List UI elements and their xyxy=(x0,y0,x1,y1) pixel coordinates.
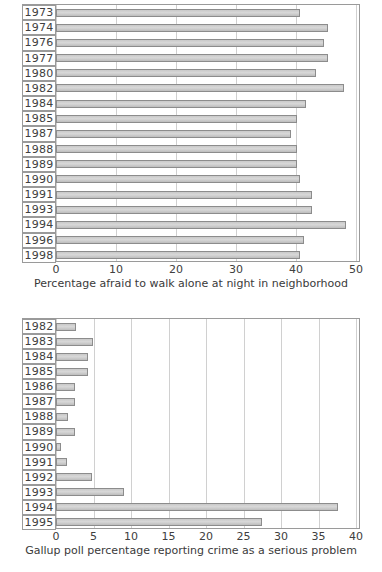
bar xyxy=(56,251,300,259)
category-label: 1989 xyxy=(22,424,56,439)
bar-track xyxy=(56,515,359,530)
bar-row: 1991 xyxy=(22,187,359,202)
bar-row: 1974 xyxy=(22,20,359,35)
bar-track xyxy=(56,81,359,96)
bar-track xyxy=(56,470,359,485)
category-label: 1984 xyxy=(22,96,56,111)
bar xyxy=(56,115,297,123)
category-label: 1977 xyxy=(22,51,56,66)
bar-track xyxy=(56,440,359,455)
bar xyxy=(56,518,262,526)
x-tick: 0 xyxy=(53,263,60,276)
bar-track xyxy=(56,66,359,81)
bar-track xyxy=(56,349,359,364)
bar xyxy=(56,443,61,451)
bar xyxy=(56,39,324,47)
bar xyxy=(56,175,300,183)
bar-track xyxy=(56,51,359,66)
x-tick: 5 xyxy=(90,530,97,543)
bar-row: 1990 xyxy=(22,440,359,455)
bar xyxy=(56,130,291,138)
bar-row: 1998 xyxy=(22,248,359,263)
category-label: 1988 xyxy=(22,142,56,157)
x-tick: 30 xyxy=(274,530,288,543)
bar-row: 1980 xyxy=(22,66,359,81)
bar-row: 1988 xyxy=(22,409,359,424)
bar xyxy=(56,428,75,436)
bar-row: 1982 xyxy=(22,81,359,96)
category-label: 1991 xyxy=(22,455,56,470)
bar xyxy=(56,488,124,496)
bar-row: 1985 xyxy=(22,364,359,379)
fear-of-crime-chart: 1973197419761977198019821984198519871988… xyxy=(0,4,382,290)
bar-row: 1982 xyxy=(22,319,359,334)
bar-track xyxy=(56,248,359,263)
category-label: 1982 xyxy=(22,81,56,96)
category-label: 1990 xyxy=(22,440,56,455)
bar xyxy=(56,413,68,421)
bar-row: 1985 xyxy=(22,111,359,126)
x-tick: 30 xyxy=(229,263,243,276)
bar xyxy=(56,473,92,481)
category-label: 1996 xyxy=(22,233,56,248)
bar-row: 1995 xyxy=(22,515,359,530)
bar-row: 1984 xyxy=(22,96,359,111)
bar-rows-top: 1973197419761977198019821984198519871988… xyxy=(22,5,359,263)
bar-row: 1987 xyxy=(22,126,359,141)
bar xyxy=(56,398,75,406)
category-label: 1998 xyxy=(22,248,56,263)
category-label: 1973 xyxy=(22,5,56,20)
x-axis-top: 0 10 20 30 40 50 xyxy=(22,262,360,278)
bar-row: 1993 xyxy=(22,202,359,217)
x-axis-title-top: Percentage afraid to walk alone at night… xyxy=(0,277,382,290)
x-tick: 50 xyxy=(349,263,363,276)
category-label: 1990 xyxy=(22,172,56,187)
category-label: 1987 xyxy=(22,126,56,141)
bar-row: 1976 xyxy=(22,35,359,50)
x-tick: 35 xyxy=(312,530,326,543)
plot-area-top: 1973197419761977198019821984198519871988… xyxy=(22,4,360,262)
bar xyxy=(56,383,75,391)
bar-track xyxy=(56,379,359,394)
bar-track xyxy=(56,394,359,409)
bar xyxy=(56,503,338,511)
bar-track xyxy=(56,126,359,141)
bar-track xyxy=(56,111,359,126)
x-tick: 10 xyxy=(124,530,138,543)
bar-row: 1984 xyxy=(22,349,359,364)
category-label: 1985 xyxy=(22,111,56,126)
category-label: 1994 xyxy=(22,500,56,515)
bar xyxy=(56,9,300,17)
bar xyxy=(56,54,328,62)
bar-track xyxy=(56,217,359,232)
bar-row: 1996 xyxy=(22,233,359,248)
category-label: 1976 xyxy=(22,35,56,50)
bar xyxy=(56,145,297,153)
bar xyxy=(56,191,312,199)
bar-track xyxy=(56,172,359,187)
bar-track xyxy=(56,485,359,500)
bar xyxy=(56,24,328,32)
x-tick: 20 xyxy=(169,263,183,276)
plot-area-bottom: 1982198319841985198619871988198919901991… xyxy=(22,318,360,529)
figure-page: 1973197419761977198019821984198519871988… xyxy=(0,0,382,572)
x-tick: 40 xyxy=(349,530,363,543)
bar-rows-bottom: 1982198319841985198619871988198919901991… xyxy=(22,319,359,530)
x-tick: 20 xyxy=(199,530,213,543)
bar-track xyxy=(56,96,359,111)
bar-track xyxy=(56,364,359,379)
x-tick: 25 xyxy=(237,530,251,543)
x-tick: 0 xyxy=(53,530,60,543)
bar-track xyxy=(56,35,359,50)
x-tick: 40 xyxy=(289,263,303,276)
category-label: 1987 xyxy=(22,394,56,409)
category-label: 1985 xyxy=(22,364,56,379)
bar xyxy=(56,84,344,92)
category-label: 1988 xyxy=(22,409,56,424)
category-label: 1992 xyxy=(22,470,56,485)
category-label: 1995 xyxy=(22,515,56,530)
category-label: 1993 xyxy=(22,202,56,217)
category-label: 1986 xyxy=(22,379,56,394)
bar xyxy=(56,160,297,168)
bar-row: 1991 xyxy=(22,455,359,470)
